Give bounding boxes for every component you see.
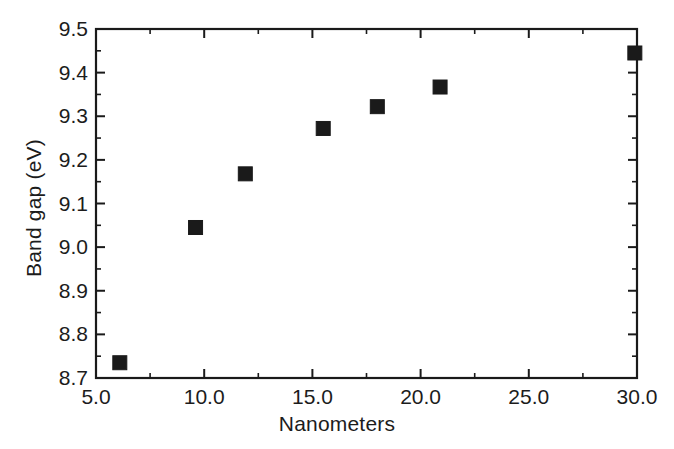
data-point-marker bbox=[189, 220, 203, 234]
data-point-markers bbox=[113, 46, 642, 370]
plot-canvas bbox=[0, 0, 674, 449]
y-tick-label: 9.3 bbox=[59, 104, 88, 128]
y-tick-label: 8.9 bbox=[59, 279, 88, 303]
plot-frame bbox=[96, 29, 637, 378]
data-point-marker bbox=[628, 46, 642, 60]
y-tick-label: 8.8 bbox=[59, 322, 88, 346]
x-axis-label: Nanometers bbox=[0, 412, 674, 436]
data-point-marker bbox=[238, 167, 252, 181]
x-tick-label: 25.0 bbox=[508, 385, 549, 409]
data-point-marker bbox=[433, 80, 447, 94]
data-point-marker bbox=[113, 356, 127, 370]
y-tick-label: 9.2 bbox=[59, 148, 88, 172]
x-tick-label: 20.0 bbox=[400, 385, 441, 409]
x-tick-label: 15.0 bbox=[292, 385, 333, 409]
scatter-plot-figure: 8.78.88.99.09.19.29.39.49.5 5.010.015.02… bbox=[0, 0, 674, 449]
axis-frame-rect bbox=[96, 29, 637, 378]
y-tick-label: 9.5 bbox=[59, 17, 88, 41]
y-axis-label: Band gap (eV) bbox=[22, 98, 46, 318]
y-tick-label: 9.0 bbox=[59, 235, 88, 259]
x-axis-ticks bbox=[96, 29, 637, 378]
y-tick-label: 9.1 bbox=[59, 192, 88, 216]
x-tick-label: 30.0 bbox=[617, 385, 658, 409]
data-point-marker bbox=[370, 100, 384, 114]
y-tick-label: 9.4 bbox=[59, 61, 88, 85]
data-point-marker bbox=[316, 121, 330, 135]
y-axis-ticks bbox=[96, 29, 637, 378]
x-tick-label: 5.0 bbox=[81, 385, 110, 409]
x-tick-label: 10.0 bbox=[184, 385, 225, 409]
